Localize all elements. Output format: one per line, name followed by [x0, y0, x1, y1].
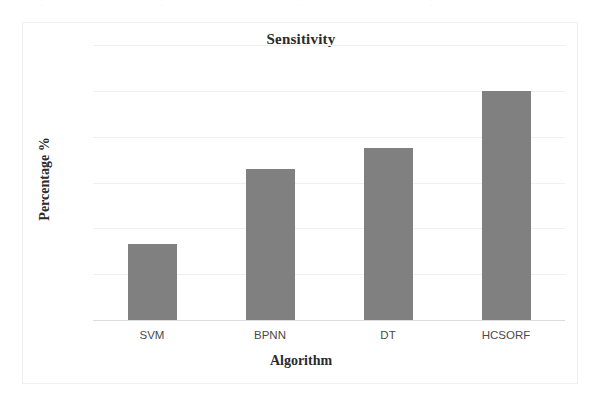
x-axis-tick-label: DT [338, 329, 438, 341]
x-axis-tick-label: HCSORF [456, 329, 556, 341]
gridline [93, 320, 565, 321]
scan-fragment: . [430, 0, 432, 8]
scan-fragment: . [40, 0, 42, 8]
scan-fragment: . [160, 0, 162, 8]
bar-dt [364, 148, 413, 320]
scan-fragment: . [300, 0, 302, 8]
x-axis-title: Algorithm [23, 353, 579, 369]
x-axis-tick-label: BPNN [220, 329, 320, 341]
chart-frame: Sensitivity Percentage % 78808284868890S… [22, 22, 578, 384]
bar-bpnn [246, 169, 295, 320]
plot-area: 78808284868890SVMBPNNDTHCSORF [93, 45, 565, 320]
x-axis-tick-label: SVM [102, 329, 202, 341]
bar-svm [128, 244, 177, 320]
gridline [93, 45, 565, 46]
scan-text-artifact: . . . . [0, 0, 598, 10]
y-axis-title: Percentage % [37, 119, 53, 239]
bar-hcsorf [482, 91, 531, 320]
